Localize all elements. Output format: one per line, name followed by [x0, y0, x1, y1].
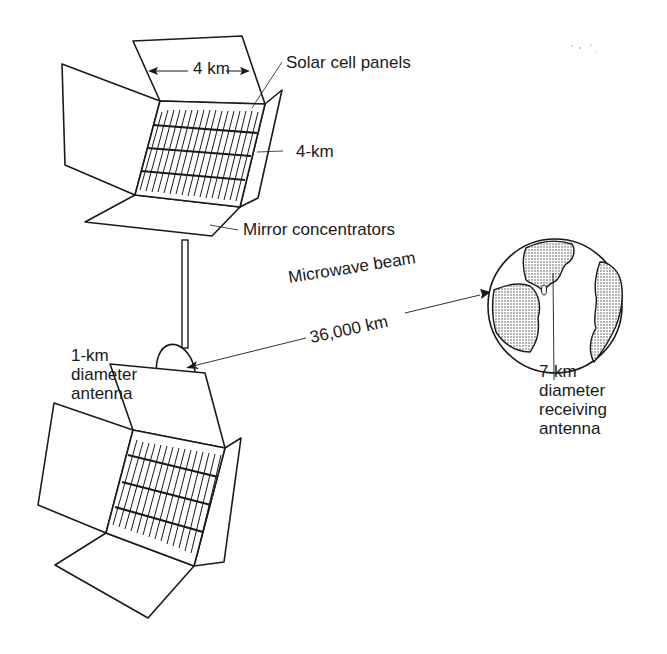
width-label: 4 km [193, 59, 230, 78]
mirrors-label: Mirror concentrators [243, 220, 395, 239]
scan-speckle [571, 44, 597, 53]
antenna-label-line2: diameter [71, 365, 137, 384]
receiver-label-line4: antenna [539, 419, 607, 438]
upper-solar-array [62, 36, 282, 236]
receiver-label-line3: receiving [539, 400, 607, 419]
earth-globe [488, 239, 622, 373]
solar-panels-label: Solar cell panels [286, 53, 411, 72]
receiver-label-line1: 7-km [539, 362, 607, 381]
distance-line-left [193, 338, 306, 366]
distance-line-right [405, 295, 480, 313]
antenna-label-line1: 1-km [71, 346, 137, 365]
height-label: 4-km [296, 142, 334, 161]
antenna-label: 1-km diameter antenna [71, 346, 137, 403]
lower-solar-array [38, 364, 241, 618]
receiver-label: 7-km diameter receiving antenna [539, 362, 607, 438]
receiver-label-line2: diameter [539, 381, 607, 400]
antenna-label-line3: antenna [71, 384, 137, 403]
